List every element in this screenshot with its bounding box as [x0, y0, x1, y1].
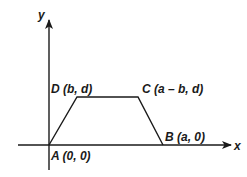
x-axis-label: x — [233, 139, 242, 153]
point-label-c: C (a – b, d) — [142, 82, 203, 96]
trapezoid-outline — [49, 97, 163, 145]
point-label-b: B (a, 0) — [165, 130, 205, 144]
trapezoid-diagram: y x D (b, d) C (a – b, d) B (a, 0) A (0,… — [0, 0, 247, 177]
point-label-a: A (0, 0) — [50, 149, 91, 163]
point-label-d: D (b, d) — [51, 82, 92, 96]
y-axis-label: y — [37, 8, 46, 22]
